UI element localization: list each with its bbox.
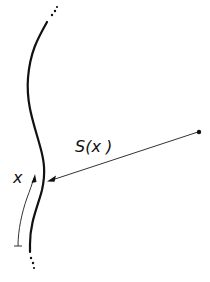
diagram-canvas: S(x ) x [0, 0, 210, 282]
main-curve [28, 22, 47, 252]
curve-top-dotted-continuation [51, 6, 58, 16]
arc-length-arrow [18, 178, 34, 246]
arc-length-label: x [12, 168, 23, 187]
curve-bottom-dotted-continuation [30, 257, 35, 269]
arc-length-arrowhead-icon [32, 174, 37, 183]
source-point [197, 130, 201, 134]
distance-label: S(x ) [75, 137, 112, 156]
distance-arrowhead-icon [47, 176, 56, 182]
distance-line [52, 132, 198, 180]
